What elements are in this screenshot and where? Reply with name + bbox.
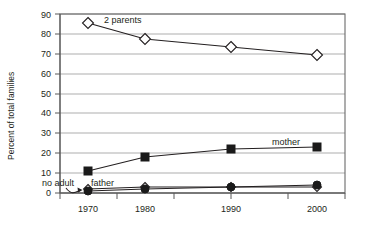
series-label-no-adult: no adult <box>42 178 75 188</box>
y-axis-title: Percent of total families <box>6 72 16 160</box>
series-label-mother: mother <box>272 137 300 147</box>
series-mother-point-1970 <box>84 167 92 175</box>
series-father-point-2000 <box>313 181 321 189</box>
y-tick-label-70: 70 <box>41 49 51 59</box>
series-father-point-1970 <box>84 187 92 195</box>
series-mother-point-1990 <box>227 145 235 153</box>
x-tick-label-2000: 2000 <box>307 204 327 214</box>
series-father-point-1990 <box>227 183 235 191</box>
series-mother-point-1980 <box>141 153 149 161</box>
y-tick-label-90: 90 <box>41 10 51 20</box>
y-tick-label-10: 10 <box>41 168 51 178</box>
chart-container: 0 10 20 30 40 50 60 70 80 90 Percent of … <box>0 0 365 226</box>
x-tick-label-1990: 1990 <box>221 204 241 214</box>
y-tick-label-50: 50 <box>41 89 51 99</box>
x-tick-label-1980: 1980 <box>135 204 155 214</box>
y-tick-label-30: 30 <box>41 128 51 138</box>
y-tick-label-0: 0 <box>46 188 51 198</box>
x-tick-label-1970: 1970 <box>78 204 98 214</box>
series-label-2-parents: 2 parents <box>104 15 142 25</box>
series-label-father: father <box>91 178 114 188</box>
line-chart: 0 10 20 30 40 50 60 70 80 90 Percent of … <box>0 0 365 226</box>
series-father-point-1980 <box>141 185 149 193</box>
y-tick-label-80: 80 <box>41 29 51 39</box>
y-tick-label-20: 20 <box>41 148 51 158</box>
y-tick-label-40: 40 <box>41 108 51 118</box>
series-mother-point-2000 <box>313 143 321 151</box>
y-tick-label-60: 60 <box>41 69 51 79</box>
